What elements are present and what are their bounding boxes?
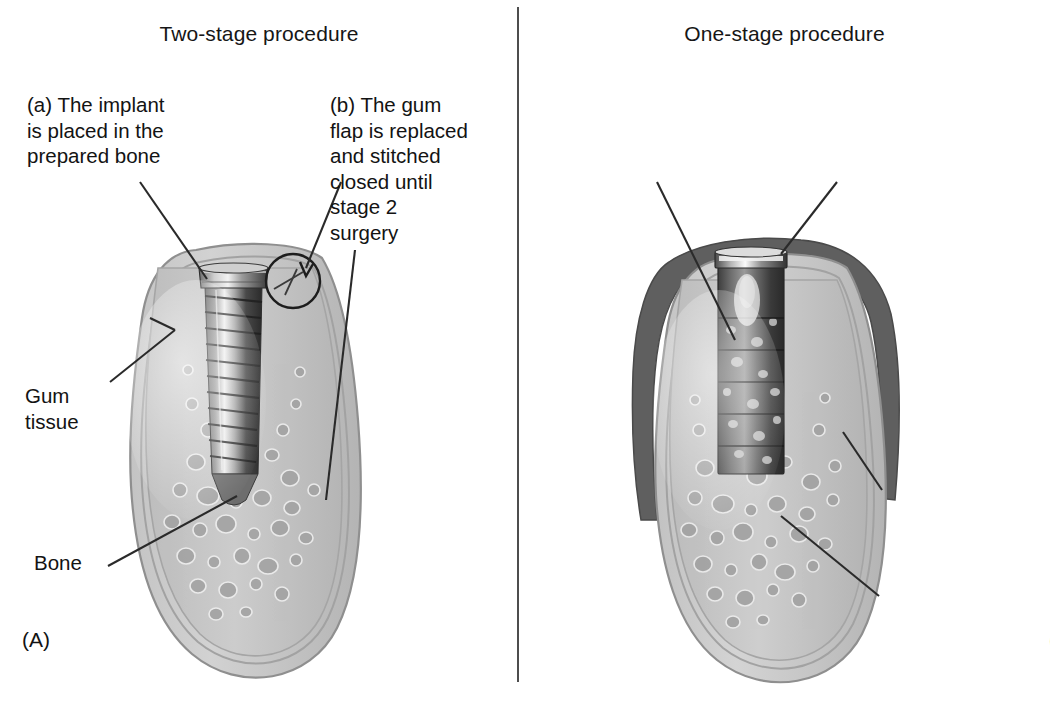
panel-two-stage: Two-stage procedure [0, 0, 518, 709]
panel-b-illustration [519, 0, 1050, 709]
panel-letter-a: (A) [22, 628, 50, 652]
label-gum-tissue-a: Gum tissue [25, 383, 115, 434]
callout-a-implant-placed: (a) The implant is placed in the prepare… [27, 92, 227, 169]
callout-b-gum-flap: (b) The gum flap is replaced and stitche… [330, 92, 505, 245]
dental-implant-figure: Two-stage procedure [0, 0, 1050, 709]
label-bone-a: Bone [34, 550, 124, 576]
panel-one-stage: One-stage procedure [519, 0, 1050, 709]
